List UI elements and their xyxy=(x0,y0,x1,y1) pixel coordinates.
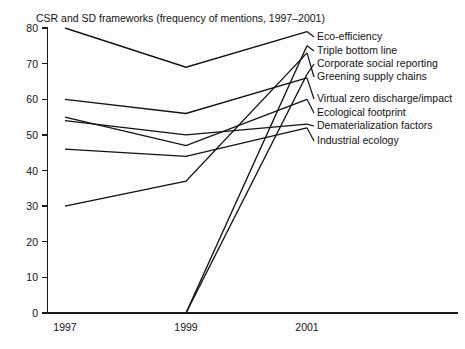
leader-line-eco-efficiency xyxy=(307,32,314,37)
y-tick-label-0: 0 xyxy=(32,307,38,319)
line-chart: CSR and SD frameworks (frequency of ment… xyxy=(0,0,465,349)
y-tick-label-30: 30 xyxy=(26,200,38,212)
leader-line-ecological-footprint xyxy=(307,99,314,113)
series-label-virtual-zero-discharge: Virtual zero discharge/impact xyxy=(317,92,452,104)
series-line-corporate-social-reporting xyxy=(186,74,307,313)
series-lines xyxy=(65,28,307,313)
y-tick-label-40: 40 xyxy=(26,165,38,177)
leader-line-triple-bottom-line xyxy=(307,46,314,51)
y-tick-label-80: 80 xyxy=(26,22,38,34)
series-label-triple-bottom-line: Triple bottom line xyxy=(317,44,397,56)
series-label-industrial-ecology: Industrial ecology xyxy=(317,134,399,146)
x-tick-label-1997: 1997 xyxy=(53,321,77,333)
y-tick-label-70: 70 xyxy=(26,58,38,70)
y-tick-label-50: 50 xyxy=(26,129,38,141)
y-tick-group xyxy=(42,28,48,313)
leader-line-industrial-ecology xyxy=(307,128,314,141)
series-line-ecological-footprint xyxy=(65,99,307,145)
x-tick-label-1999: 1999 xyxy=(174,321,198,333)
series-line-virtual-zero-discharge xyxy=(65,78,307,114)
series-label-dematerialization-factors: Dematerialization factors xyxy=(317,119,433,131)
series-label-ecological-footprint: Ecological footprint xyxy=(317,106,406,118)
leader-line-dematerialization-factors xyxy=(307,124,314,126)
series-line-dematerialization-factors xyxy=(65,121,307,135)
series-labels: Eco-efficiency Triple bottom line Corpor… xyxy=(317,30,452,146)
chart-page: CSR and SD frameworks (frequency of ment… xyxy=(0,0,465,349)
series-label-greening-supply-chains: Greening supply chains xyxy=(317,70,427,82)
y-tick-label-20: 20 xyxy=(26,236,38,248)
x-tick-labels: 1997 1999 2001 xyxy=(53,321,319,333)
chart-title: CSR and SD frameworks (frequency of ment… xyxy=(36,12,325,24)
y-tick-label-60: 60 xyxy=(26,93,38,105)
series-label-eco-efficiency: Eco-efficiency xyxy=(317,30,383,42)
leader-line-virtual-zero-discharge xyxy=(307,78,314,99)
series-line-greening-supply-chains xyxy=(65,53,307,206)
series-line-eco-efficiency xyxy=(65,28,307,67)
y-tick-labels: 80 70 60 50 40 30 20 10 0 xyxy=(26,22,38,319)
series-line-triple-bottom-line xyxy=(186,46,307,313)
x-tick-label-2001: 2001 xyxy=(295,321,319,333)
series-line-industrial-ecology xyxy=(65,128,307,157)
y-tick-label-10: 10 xyxy=(26,271,38,283)
leader-lines xyxy=(307,32,314,141)
series-label-corporate-social-reporting: Corporate social reporting xyxy=(317,57,438,69)
